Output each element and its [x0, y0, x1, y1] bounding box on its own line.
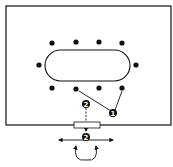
seat-bottom-3 [96, 85, 101, 90]
seat-bottom-2 [73, 86, 78, 91]
room-outline [6, 6, 171, 125]
marker-2-outside-label: 2 [84, 134, 89, 142]
marker-2-inside: 2 [82, 100, 90, 109]
rotation-arrow [75, 146, 96, 160]
seat-left [36, 62, 41, 67]
pointer-line-1b [115, 91, 122, 110]
marker-1: 1 [109, 109, 117, 118]
seat-top-3 [96, 39, 101, 44]
marker-1-label: 1 [111, 110, 116, 118]
seat-bottom-1 [49, 85, 54, 90]
room-diagram: 1 2 2 [0, 0, 173, 167]
seat-right [133, 62, 138, 67]
seat-top-4 [119, 40, 124, 45]
table [45, 50, 130, 81]
seat-bottom-4 [119, 85, 124, 90]
marker-2-inside-label: 2 [84, 101, 89, 109]
seat-top-1 [49, 40, 54, 45]
seat-top-2 [73, 39, 78, 44]
door [74, 122, 100, 128]
